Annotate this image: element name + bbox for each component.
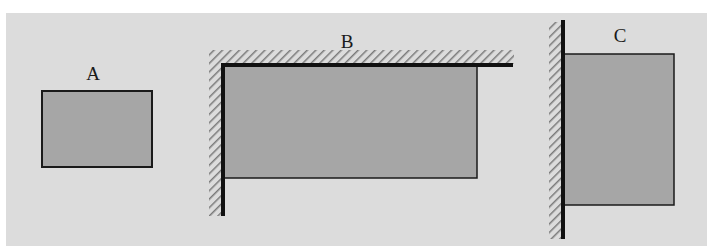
left-wall-hatch <box>549 22 562 239</box>
figure-c-label: C <box>614 25 627 46</box>
figure-a-label: A <box>86 63 100 84</box>
top-wall-hatch <box>209 50 514 64</box>
plate-a <box>42 91 152 167</box>
figure-a: A <box>42 63 152 167</box>
figure-b-label: B <box>341 31 354 52</box>
plate-b <box>223 65 477 178</box>
plate-c <box>563 54 674 205</box>
left-wall-hatch <box>209 50 222 216</box>
diagram-canvas: A B C <box>0 0 713 251</box>
figure-b: B <box>209 31 514 216</box>
figure-c: C <box>549 20 674 239</box>
